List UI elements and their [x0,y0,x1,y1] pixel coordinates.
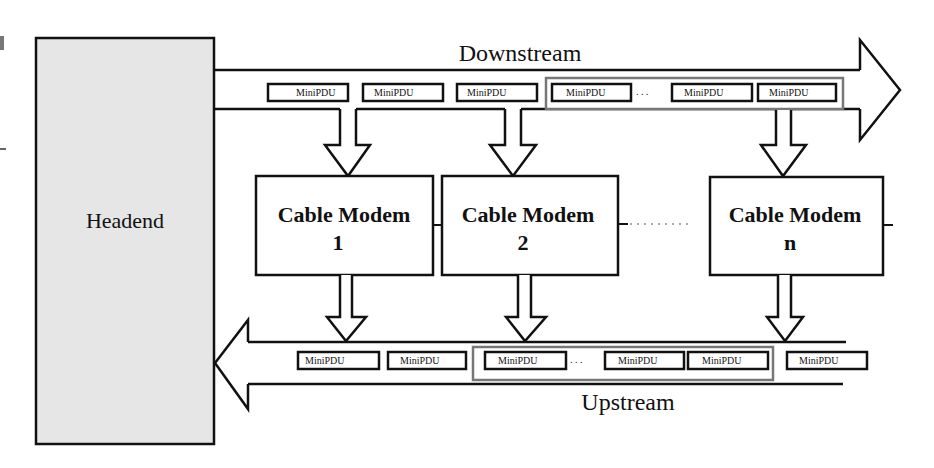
downstream-pdu-group: MiniPDU . . . MiniPDU MiniPDU [546,78,843,109]
headend-label: Headend [86,208,164,233]
down-arrow-cmn [761,110,806,176]
modem-label: Cable Modem [729,202,862,227]
pdu-label: MiniPDU [618,355,658,366]
downstream-pdu: MiniPDU [457,84,537,101]
upstream-label: Upstream [581,389,675,415]
pdu-label: MiniPDU [684,87,724,98]
pdu-label: MiniPDU [374,87,414,98]
pdu-label: MiniPDU [296,87,336,98]
upstream-pdu-group: MiniPDU . . . MiniPDU MiniPDU [473,347,773,380]
pdu-label: MiniPDU [566,87,606,98]
downstream-pdu: MiniPDU [268,84,348,101]
upstream-trailing-pdu: MiniPDU [787,352,867,369]
margin-mark [0,36,4,50]
pdu-label: MiniPDU [467,87,507,98]
modem-number: 1 [333,230,344,255]
pdu-label: MiniPDU [799,355,839,366]
modem-to-upstream-arrow-cm1 [327,275,366,341]
modem-label: Cable Modem [278,202,411,227]
downstream-pdu: MiniPDU [363,84,443,101]
upstream-pdu: MiniPDU [388,352,466,369]
headend-box: Headend [36,38,214,444]
ellipsis: . . . [636,86,649,97]
pdu-label: MiniPDU [769,87,809,98]
modem-number: 2 [518,230,529,255]
ellipsis: . . . [570,354,583,365]
downstream-label: Downstream [459,40,582,66]
modem-number: n [784,230,796,255]
pdu-label: MiniPDU [702,355,742,366]
cable-modem-1: Cable Modem 1 [256,176,433,275]
cable-modem-2: Cable Modem 2 [442,176,618,275]
modem-to-upstream-arrow-cmn [767,275,803,341]
cable-network-diagram: Headend Downstream MiniPDU MiniPDU MiniP… [0,0,934,468]
cable-modem-n: Cable Modem n [710,177,883,275]
down-arrow-cm1 [325,109,370,176]
pdu-label: MiniPDU [400,355,440,366]
modem-to-upstream-arrow-cm2 [506,275,546,341]
modem-label: Cable Modem [462,202,595,227]
pdu-label: MiniPDU [305,355,345,366]
down-arrow-cm2 [490,109,536,176]
pdu-label: MiniPDU [498,355,538,366]
upstream-pdu: MiniPDU [298,352,379,369]
